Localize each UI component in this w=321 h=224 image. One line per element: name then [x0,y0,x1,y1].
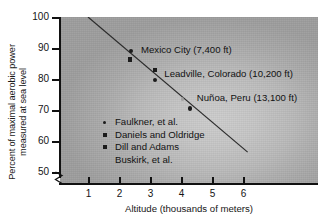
data-point-faulkner-2 [153,78,157,82]
y-tick-60 [52,141,61,143]
data-point-dill-1 [153,68,157,72]
legend-item-buskirk: Buskirk, et al. [103,154,205,167]
x-tick-label-1: 1 [80,188,98,199]
legend-item-daniels: Daniels and Oldridge [103,129,205,142]
y-tick-label-90: 90 [23,43,49,53]
annotation-nunoa: Nuñoa, Peru (13,100 ft) [197,92,297,103]
data-point-faulkner-3 [188,106,192,110]
y-axis-title-line-1: Percent of maximal aerobic power [7,44,18,180]
legend-marker-square-icon [103,133,115,137]
x-tick-2 [119,177,121,185]
x-tick-label-2: 2 [111,188,129,199]
legend-marker-circle-icon [103,121,115,124]
legend-label-buskirk: Buskirk, et al. [115,154,173,167]
legend-marker-square-icon-2 [103,145,115,149]
annotation-mexico-city: Mexico City (7,400 ft) [141,44,232,55]
y-tick-90 [52,48,61,50]
legend-item-faulkner: Faulkner, et al. [103,116,205,129]
legend-label-daniels: Daniels and Oldridge [115,129,205,142]
legend-marker-none-icon [103,158,115,162]
x-tick-6 [243,177,245,185]
legend-item-dill: Dill and Adams [103,141,205,154]
x-tick-label-5: 5 [204,188,222,199]
x-tick-5 [212,177,214,185]
x-tick-4 [181,177,183,185]
y-tick-70 [52,110,61,112]
y-tick-label-80: 80 [23,74,49,84]
x-tick-1 [88,177,90,185]
x-tick-label-3: 3 [142,188,160,199]
x-tick-label-6: 6 [235,188,253,199]
x-axis-spine [59,183,318,185]
y-tick-label-60: 60 [23,136,49,146]
x-tick-label-4: 4 [173,188,191,199]
y-tick-100 [52,17,61,19]
y-tick-80 [52,79,61,81]
legend-label-faulkner: Faulkner, et al. [115,116,178,129]
y-tick-label-70: 70 [23,105,49,115]
x-axis-title: Altitude (thousands of meters) [60,203,318,214]
x-tick-3 [150,177,152,185]
data-point-daniels-1 [128,57,132,61]
y-tick-50 [52,172,61,174]
y-tick-label-50: 50 [23,167,49,177]
legend-label-dill: Dill and Adams [115,141,179,154]
y-tick-label-100: 100 [23,12,49,22]
chart-figure: Percent of maximal aerobic power measure… [0,0,321,224]
y-axis-spine [59,17,61,178]
legend: Faulkner, et al. Daniels and Oldridge Di… [103,116,205,166]
annotation-leadville: Leadville, Colorado (10,200 ft) [164,68,293,79]
